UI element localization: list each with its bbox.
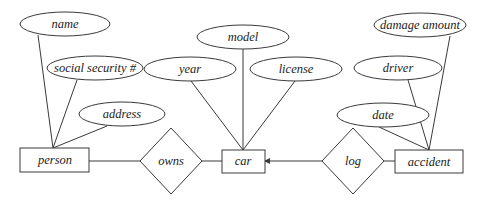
edge-car-year	[191, 81, 243, 150]
entity-person-label: person	[37, 153, 72, 167]
entity-car-label: car	[235, 154, 252, 168]
relationship-log: log	[322, 128, 384, 194]
relationship-owns-label: owns	[158, 154, 184, 168]
edge-accident-date	[379, 127, 429, 150]
attribute-model: model	[197, 25, 289, 49]
edge-person-address	[53, 126, 107, 148]
entity-accident: accident	[395, 150, 463, 173]
entity-person: person	[20, 148, 89, 172]
attribute-model-label: model	[228, 30, 259, 44]
attribute-year-label: year	[177, 62, 201, 76]
attribute-driver-label: driver	[383, 61, 414, 75]
edge-accident-damage	[429, 36, 450, 150]
attribute-date: date	[337, 103, 429, 127]
edge-car-license	[243, 81, 295, 150]
attribute-year: year	[144, 57, 236, 81]
attribute-damage-label: damage amount	[380, 18, 461, 32]
relationship-log-label: log	[345, 154, 361, 168]
entity-accident-label: accident	[408, 155, 451, 169]
edge-person-ssn	[53, 80, 77, 148]
er-diagram: name social security # address model yea…	[0, 0, 487, 206]
attribute-license: license	[250, 57, 342, 81]
entity-car: car	[222, 150, 265, 173]
attribute-ssn-label: social security #	[54, 61, 137, 75]
attribute-address: address	[79, 102, 165, 126]
attribute-name: name	[20, 12, 110, 36]
relationship-owns: owns	[140, 128, 202, 194]
attribute-date-label: date	[372, 108, 394, 122]
edge-person-name	[38, 35, 53, 148]
attribute-name-label: name	[51, 17, 79, 31]
attribute-damage-amount: damage amount	[374, 13, 466, 37]
attribute-driver: driver	[354, 56, 442, 80]
attribute-license-label: license	[279, 62, 314, 76]
attribute-address-label: address	[103, 107, 142, 121]
attribute-social-security: social security #	[47, 56, 143, 80]
